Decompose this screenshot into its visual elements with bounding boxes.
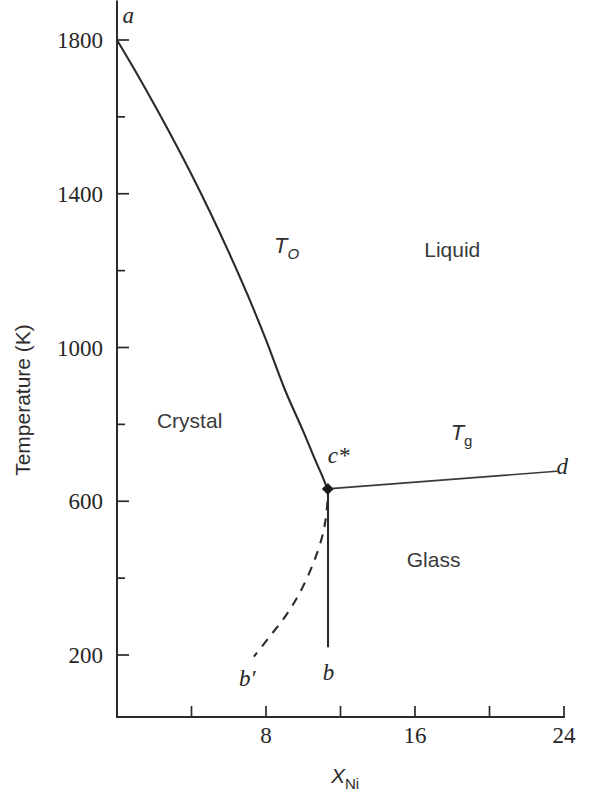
curve-label-T-zero: TO bbox=[274, 233, 299, 262]
y-tick-label: 200 bbox=[69, 643, 104, 668]
x-tick-label: 24 bbox=[553, 723, 577, 748]
x-axis-tick-labels: 81624 bbox=[260, 723, 576, 748]
y-tick-label: 1400 bbox=[57, 182, 103, 207]
region-glass: Glass bbox=[407, 548, 461, 571]
region-crystal: Crystal bbox=[157, 409, 222, 432]
y-tick-label: 1800 bbox=[57, 28, 103, 53]
x-tick-label: 16 bbox=[404, 723, 427, 748]
y-axis-tick-labels: 180014001000600200 bbox=[57, 28, 103, 668]
point-b-prime: b′ bbox=[239, 666, 257, 691]
region-liquid: Liquid bbox=[424, 238, 480, 261]
y-axis-title: Temperature (K) bbox=[11, 324, 34, 476]
data-curves bbox=[117, 40, 557, 657]
axis-titles: Temperature (K) XNi bbox=[11, 324, 359, 792]
y-tick-label: 1000 bbox=[57, 336, 103, 361]
x-axis-title-base: X bbox=[330, 764, 346, 787]
phase-diagram-figure: 180014001000600200 81624 abb′c*dTOTgLiqu… bbox=[0, 0, 600, 801]
point-a: a bbox=[122, 3, 134, 28]
chart-annotations: abb′c*dTOTgLiquidCrystalGlass bbox=[122, 3, 568, 691]
y-axis-ticks bbox=[117, 40, 129, 655]
x-axis-title-subscript: Ni bbox=[345, 775, 359, 792]
x-axis-ticks bbox=[192, 706, 565, 717]
curve-label-T-g: Tg bbox=[451, 420, 473, 449]
axes-group bbox=[117, 2, 564, 717]
x-axis-title: XNi bbox=[330, 764, 359, 792]
y-tick-label: 600 bbox=[69, 489, 104, 514]
c-star-marker bbox=[322, 484, 333, 495]
point-b: b bbox=[323, 660, 335, 685]
point-c-star: c* bbox=[328, 443, 350, 468]
curve-t-glass bbox=[327, 471, 556, 489]
phase-diagram-svg: 180014001000600200 81624 abb′c*dTOTgLiqu… bbox=[0, 0, 600, 801]
curve-dashed-b-prime bbox=[254, 501, 328, 656]
x-tick-label: 8 bbox=[260, 723, 272, 748]
data-markers bbox=[322, 484, 333, 495]
point-d: d bbox=[556, 454, 568, 479]
